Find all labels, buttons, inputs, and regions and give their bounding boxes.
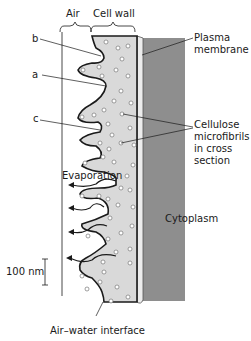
cytoplasm-label: Cytoplasm [165, 213, 218, 225]
plasma-membrane-label: Plasma membrane [194, 32, 249, 56]
cellulose-line-3: in cross [194, 143, 250, 155]
scale-bar-label: 100 nm [6, 266, 44, 278]
cell-wall-brace [91, 22, 135, 32]
label-a: a [32, 69, 38, 81]
cellulose-line-2: microfibrils [194, 131, 250, 143]
arrow-heads [66, 182, 74, 261]
air-label: Air [66, 8, 80, 20]
cellulose-label: Cellulose microfibrils in cross section [194, 119, 250, 167]
plasma-membrane-line-2: membrane [194, 44, 249, 56]
cytoplasm-region [141, 38, 185, 301]
cellulose-line-4: section [194, 155, 250, 167]
label-b: b [32, 33, 38, 45]
air-brace [60, 22, 91, 32]
label-c: c [33, 113, 39, 125]
evaporation-label: Evaporation [62, 170, 122, 182]
cellulose-line-1: Cellulose [194, 119, 250, 131]
cell-wall-label: Cell wall [93, 8, 135, 20]
air-water-interface-label: Air–water interface [50, 325, 145, 337]
plasma-membrane [137, 36, 143, 303]
plasma-membrane-line-1: Plasma [194, 32, 249, 44]
